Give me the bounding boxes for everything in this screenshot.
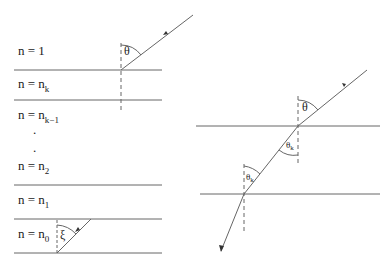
layer-label-nk-1: n = nk−1 (18, 107, 59, 125)
ellipsis-dot-2: . (33, 140, 36, 156)
angle-theta-right: θ (302, 100, 308, 115)
ellipsis-dot-1: . (33, 122, 36, 138)
angle-theta-k-mid: θk (286, 140, 294, 152)
refraction-diagram: n = 1 n = nk n = nk−1 . . n = n2 n = n1 … (0, 0, 390, 270)
layer-label-1: n = 1 (18, 43, 45, 59)
layer-label-n1: n = n1 (18, 192, 49, 210)
diagram-lines (0, 0, 390, 270)
angle-xi: ξ (60, 228, 65, 243)
layer-label-n2: n = n2 (18, 158, 49, 176)
layer-label-n0: n = n0 (18, 226, 49, 244)
angle-theta-left: θ (124, 44, 130, 59)
layer-label-nk: n = nk (18, 76, 49, 94)
angle-theta-k-low: θk (246, 172, 254, 184)
